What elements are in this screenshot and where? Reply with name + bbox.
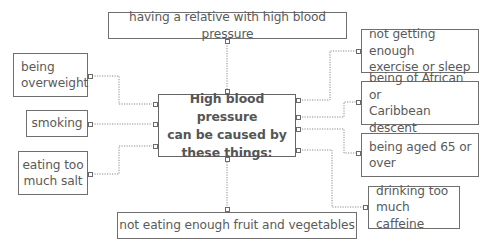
connector-overweight bbox=[92, 76, 152, 104]
cause-line: smoking bbox=[32, 115, 83, 132]
cause-line: over bbox=[369, 155, 472, 172]
port-hub-bottom bbox=[225, 157, 230, 162]
central-line-2: can be caused by bbox=[159, 126, 295, 144]
cause-box-aged-65: being aged 65 or over bbox=[361, 133, 479, 177]
cause-box-salt: eating too much salt bbox=[18, 151, 88, 195]
port-hub-left-1 bbox=[153, 102, 158, 107]
cause-line: eating too bbox=[22, 157, 83, 174]
port-hub-left-3 bbox=[153, 144, 158, 149]
port-overweight bbox=[88, 74, 93, 79]
central-topic-box: High blood pressure can be caused by the… bbox=[158, 94, 296, 157]
cause-line: not getting enough bbox=[369, 26, 478, 59]
central-line-1: High blood pressure bbox=[159, 90, 295, 126]
port-african bbox=[356, 100, 361, 105]
cause-box-relative: having a relative with high blood pressu… bbox=[108, 12, 347, 39]
port-hub-top bbox=[225, 89, 230, 94]
cause-box-exercise-sleep: not getting enough exercise or sleep bbox=[361, 29, 479, 73]
cause-box-overweight: being overweight bbox=[13, 53, 88, 97]
central-topic-text: High blood pressure can be caused by the… bbox=[159, 90, 295, 162]
port-aged bbox=[356, 151, 361, 156]
cause-line: overweight bbox=[21, 75, 88, 92]
port-hub-right-3 bbox=[296, 127, 301, 132]
cause-box-caffeine: drinking too much caffeine bbox=[368, 186, 460, 229]
port-bottom-box bbox=[225, 207, 230, 212]
port-smoking bbox=[88, 122, 93, 127]
port-caffeine bbox=[363, 205, 368, 210]
connector-salt bbox=[92, 146, 152, 174]
cause-box-smoking: smoking bbox=[26, 110, 88, 137]
port-top-box bbox=[225, 39, 230, 44]
connector-african bbox=[302, 102, 356, 117]
cause-line: being aged 65 or bbox=[369, 139, 472, 156]
port-hub-right-4 bbox=[296, 148, 301, 153]
cause-line: drinking too bbox=[376, 183, 459, 200]
cause-label: having a relative with high blood pressu… bbox=[109, 9, 346, 42]
cause-label: not eating enough fruit and vegetables bbox=[119, 217, 354, 234]
mind-map-diagram: having a relative with high blood pressu… bbox=[0, 0, 488, 248]
connector-aged bbox=[302, 129, 356, 153]
cause-line: much caffeine bbox=[376, 199, 459, 232]
cause-line: Caribbean descent bbox=[369, 103, 478, 136]
cause-box-fruit-vegetables: not eating enough fruit and vegetables bbox=[117, 212, 357, 239]
cause-line: being bbox=[21, 59, 88, 76]
connector-caffeine bbox=[302, 150, 363, 207]
port-hub-right-2 bbox=[296, 115, 301, 120]
cause-box-african-caribbean: being of African or Caribbean descent bbox=[361, 81, 479, 125]
connector-exercise bbox=[302, 51, 356, 100]
port-salt bbox=[88, 172, 93, 177]
cause-line: much salt bbox=[22, 173, 83, 190]
cause-line: being of African or bbox=[369, 70, 478, 103]
port-hub-right-1 bbox=[296, 98, 301, 103]
port-hub-left-2 bbox=[153, 122, 158, 127]
port-exercise bbox=[356, 49, 361, 54]
